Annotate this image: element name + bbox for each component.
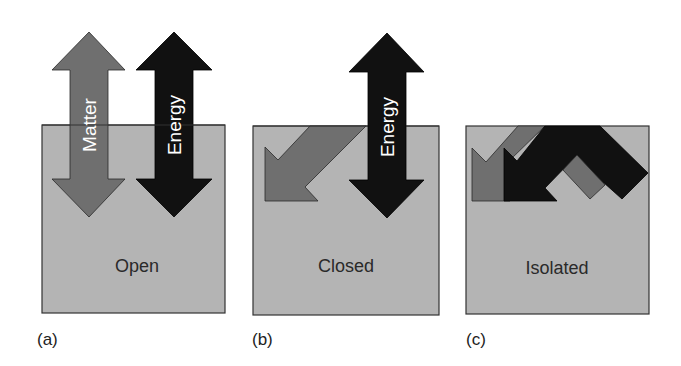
system-type-label: Isolated: [525, 258, 588, 278]
open-system-box: [42, 125, 225, 313]
thermodynamic-systems-diagram: Matter Energy Open (a) Energy Closed (b)…: [0, 0, 681, 366]
system-type-label: Open: [115, 256, 159, 276]
panel-isolated: Isolated (c): [466, 126, 649, 349]
panel-label: (b): [252, 330, 273, 349]
panel-label: (c): [466, 330, 486, 349]
matter-arrow-label: Matter: [79, 97, 100, 152]
system-type-label: Closed: [318, 256, 374, 276]
closed-system-box: [253, 126, 439, 315]
energy-arrow-label: Energy: [164, 94, 185, 155]
panel-closed: Energy Closed (b): [252, 33, 439, 349]
panel-open: Matter Energy Open (a): [37, 32, 225, 349]
energy-arrow-label: Energy: [377, 96, 398, 157]
panel-label: (a): [37, 330, 58, 349]
